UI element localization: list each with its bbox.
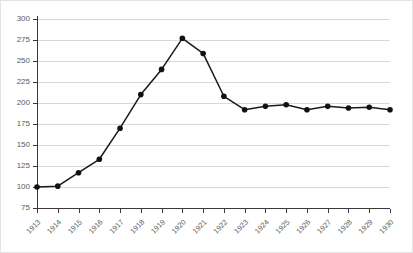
y-axis-tick-label: 275 [17,35,31,44]
y-axis-tick-label: 250 [17,56,31,65]
data-point-marker [304,107,310,113]
data-point-marker [200,51,206,57]
data-point-marker [221,93,227,99]
x-axis-tick-label: 1914 [45,218,63,236]
x-axis-tick-label: 1924 [253,218,271,236]
data-point-marker [138,92,144,98]
data-point-marker [283,102,289,108]
y-axis-tick-label: 225 [17,77,31,86]
data-point-marker [159,67,165,73]
x-axis-tick-label: 1922 [211,218,229,236]
y-axis-tick-label: 300 [17,14,31,23]
data-point-marker [76,170,82,176]
x-axis-tick-label: 1916 [87,218,105,236]
x-axis-tick-label: 1927 [315,218,333,236]
x-axis-tick-label: 1929 [357,218,375,236]
y-axis-tick-label: 100 [17,182,31,191]
x-axis-tick-label: 1913 [24,218,42,236]
x-axis-tick-label: 1928 [336,218,354,236]
data-point-marker [325,104,331,110]
x-axis-tick-label: 1925 [274,218,292,236]
data-point-marker [55,183,61,189]
y-axis-tick-label: 200 [17,98,31,107]
data-point-marker [117,125,123,131]
data-point-marker [180,36,186,42]
y-axis-tick-label: 125 [17,161,31,170]
x-axis-labels: 1913191419151916191719181919192019211922… [24,218,395,236]
x-axis-tick-label: 1930 [377,218,395,236]
x-axis-tick-label: 1923 [232,218,250,236]
chart-canvas: 30027525022520017515012510075 1913191419… [0,0,413,253]
x-axis-tick-label: 1921 [191,218,209,236]
line-chart: 30027525022520017515012510075 1913191419… [0,0,413,253]
x-axis-tick-label: 1918 [128,218,146,236]
x-axis-tick-label: 1919 [149,218,167,236]
data-point-marker [263,104,269,110]
y-axis-tick-label: 75 [21,203,30,212]
data-series-line [37,38,390,187]
y-axis-tick-label: 175 [17,119,31,128]
x-axis-tick-label: 1915 [66,218,84,236]
data-point-marker [96,156,102,162]
x-axis-tick-label: 1917 [107,218,125,236]
x-axis-tick-label: 1920 [170,218,188,236]
gridlines [37,20,390,188]
data-point-marker [242,107,248,113]
data-point-marker [346,105,352,111]
x-axis-tick-label: 1926 [294,218,312,236]
y-axis-ticks [33,20,37,209]
y-axis-tick-label: 150 [17,140,31,149]
image-border [1,1,413,253]
data-point-marker [387,107,393,113]
data-point-marker [34,184,40,190]
data-point-marker [366,104,372,110]
y-axis-labels: 30027525022520017515012510075 [17,14,31,212]
